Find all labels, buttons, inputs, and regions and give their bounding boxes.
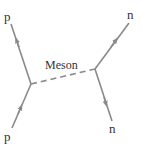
bottom-right-particle-label: n	[109, 121, 116, 136]
meson-label: Meson	[45, 58, 78, 72]
top-right-particle-label: n	[127, 7, 134, 22]
bottom-left-particle-label: p	[4, 129, 11, 144]
arrow-icon	[18, 107, 21, 114]
bottom-right-neutron-line	[95, 69, 112, 121]
top-left-proton-line	[11, 24, 31, 84]
bottom-left-proton-line	[12, 84, 31, 128]
top-right-neutron-line	[95, 23, 129, 69]
arrow-icon	[111, 40, 116, 47]
arrow-icon	[104, 97, 106, 104]
feynman-diagram: p p n n Meson	[0, 0, 143, 150]
top-left-particle-label: p	[4, 9, 11, 24]
